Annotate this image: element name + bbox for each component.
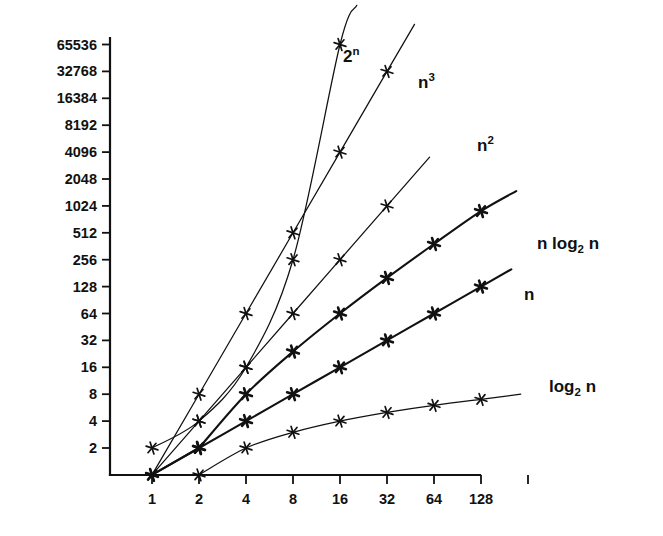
x-tick-label-4: 4 [242,491,250,507]
curve-label-log2n: log2 n [549,377,596,398]
x-tick-label-32: 32 [379,491,395,507]
y-tick-label-128: 128 [73,279,97,295]
complexity-growth-chart: 2481632641282565121024204840968192163843… [0,0,663,536]
curve-label-nlogn: n log2 n [537,234,599,255]
y-tick-label-65536: 65536 [57,37,97,53]
y-tick-label-16384: 16384 [57,90,97,106]
x-tick-label-2: 2 [195,491,203,507]
x-tick-label-1: 1 [148,491,156,507]
y-tick-label-4096: 4096 [65,144,97,160]
y-tick-label-8192: 8192 [65,117,97,133]
y-tick-label-64: 64 [81,306,97,322]
y-tick-label-2048: 2048 [65,171,97,187]
y-tick-label-2: 2 [89,440,97,456]
x-tick-label-16: 16 [332,491,348,507]
y-tick-label-4: 4 [89,413,97,429]
x-tick-label-64: 64 [426,491,442,507]
y-tick-label-512: 512 [73,225,97,241]
x-tick-label-8: 8 [289,491,297,507]
y-tick-label-32768: 32768 [57,63,97,79]
y-tick-label-1024: 1024 [65,198,97,214]
y-tick-label-32: 32 [81,332,97,348]
x-tick-label-128: 128 [469,491,493,507]
y-tick-label-16: 16 [81,359,97,375]
y-tick-label-256: 256 [73,252,97,268]
curve-label-n: n [524,285,534,304]
y-tick-label-8: 8 [89,386,97,402]
chart-canvas: 2481632641282565121024204840968192163843… [0,0,663,536]
